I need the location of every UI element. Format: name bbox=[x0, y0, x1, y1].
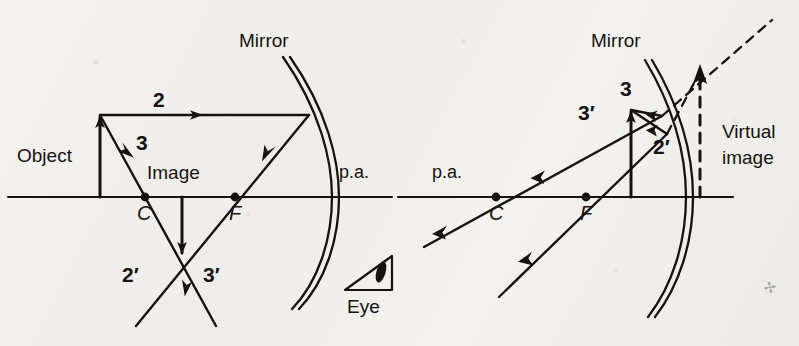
left-incident-ray-3 bbox=[100, 115, 216, 326]
right-ray-3-prime-label: 3′ bbox=[578, 102, 595, 125]
left-reflected-ray-2-prime bbox=[136, 115, 309, 326]
left-center-of-curvature-point bbox=[141, 193, 150, 202]
left-focal-point bbox=[231, 193, 240, 202]
right-extension-of-ray-3-prime bbox=[662, 20, 772, 116]
right-ray-3-label: 3 bbox=[620, 78, 632, 101]
left-ray-2-label: 2 bbox=[153, 89, 165, 112]
right-mirror-outer-arc bbox=[645, 60, 686, 317]
right-virtual-image-label-line1: Virtual bbox=[722, 122, 776, 143]
right-mirror-label: Mirror bbox=[591, 31, 641, 52]
left-principal-axis-label: p.a. bbox=[339, 163, 369, 182]
right-virtual-image-label-line2: image bbox=[722, 148, 774, 169]
right-focus-label: F bbox=[580, 203, 592, 225]
right-center-label: C bbox=[489, 203, 503, 225]
left-ray-3-prime-label: 3′ bbox=[203, 264, 220, 287]
left-ray-2-prime-label: 2′ bbox=[122, 264, 139, 287]
right-ray-2-prime-far-arrowhead bbox=[518, 252, 533, 266]
right-ray-3-prime-direction-arrowhead bbox=[531, 171, 546, 185]
right-ray-2-prime-label: 2′ bbox=[653, 136, 670, 159]
left-focus-label: F bbox=[229, 203, 241, 225]
left-center-label: C bbox=[137, 203, 151, 225]
physics-figure: Mirror 2 Object 3 Image p.a. C F 2′ 3′ E… bbox=[0, 0, 799, 346]
eye-pupil-icon bbox=[374, 260, 389, 284]
right-center-of-curvature-point bbox=[492, 193, 501, 202]
left-ray-3-label: 3 bbox=[136, 132, 148, 155]
left-image-label: Image bbox=[147, 163, 200, 184]
ray-diagram-canvas bbox=[0, 0, 799, 346]
eye-label: Eye bbox=[347, 297, 380, 318]
right-principal-axis-label: p.a. bbox=[432, 163, 462, 182]
right-focal-point bbox=[582, 193, 591, 202]
left-object-label: Object bbox=[17, 146, 72, 167]
left-mirror-label: Mirror bbox=[239, 31, 289, 52]
